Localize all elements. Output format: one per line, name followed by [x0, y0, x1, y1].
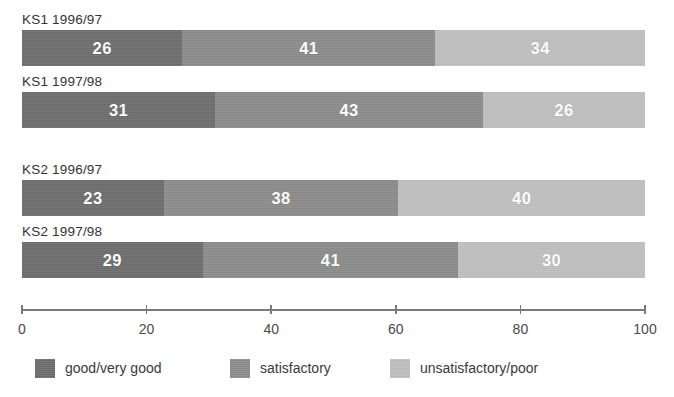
axis-tick — [395, 305, 397, 314]
axis-tick-label: 60 — [388, 321, 404, 337]
axis-tick — [146, 305, 148, 314]
bar-category-label: KS1 1997/98 — [22, 74, 102, 90]
legend-label: satisfactory — [260, 360, 331, 376]
bar-segment: 34 — [435, 30, 645, 66]
axis-tick-label: 80 — [513, 321, 529, 337]
bar-segment-value: 31 — [109, 101, 128, 120]
bar-group: KS1 1996/97264134 — [22, 12, 645, 70]
bar-category-label: KS2 1997/98 — [22, 224, 102, 240]
bar-segment-value: 26 — [554, 101, 573, 120]
bar-segment-value: 38 — [271, 189, 290, 208]
bar-segment: 38 — [164, 180, 398, 216]
legend-item[interactable]: satisfactory — [230, 359, 331, 378]
bar-segment: 30 — [458, 242, 645, 278]
bar-segment-value: 30 — [542, 251, 561, 270]
stacked-bar: 264134 — [22, 30, 645, 66]
legend-swatch — [390, 359, 410, 378]
legend-item[interactable]: good/very good — [35, 359, 162, 378]
legend-swatch — [230, 359, 250, 378]
bar-segment-value: 40 — [512, 189, 531, 208]
bar-segment: 41 — [203, 242, 458, 278]
bar-segment: 41 — [182, 30, 435, 66]
x-axis: 020406080100 — [22, 309, 645, 311]
bar-category-label: KS2 1996/97 — [22, 162, 102, 178]
axis-tick — [520, 305, 522, 314]
stacked-bar-chart: KS1 1996/97264134KS1 1997/98314326KS2 19… — [0, 0, 674, 397]
bar-segment-value: 41 — [321, 251, 340, 270]
bar-group: KS2 1997/98294130 — [22, 224, 645, 282]
stacked-bar: 314326 — [22, 92, 645, 128]
plot-area: KS1 1996/97264134KS1 1997/98314326KS2 19… — [22, 12, 645, 290]
bar-segment-value: 23 — [83, 189, 102, 208]
bar-group: KS2 1996/97233840 — [22, 162, 645, 220]
axis-tick-label: 100 — [633, 321, 656, 337]
bar-segment-value: 43 — [339, 101, 358, 120]
bar-segment-value: 34 — [530, 39, 549, 58]
bar-segment: 29 — [22, 242, 203, 278]
legend-swatch — [35, 359, 55, 378]
bar-segment-value: 29 — [103, 251, 122, 270]
axis-tick-label: 20 — [139, 321, 155, 337]
bar-segment: 23 — [22, 180, 164, 216]
legend-item[interactable]: unsatisfactory/poor — [390, 359, 538, 378]
axis-tick-label: 0 — [18, 321, 26, 337]
axis-tick-label: 40 — [263, 321, 279, 337]
bar-segment: 26 — [22, 30, 182, 66]
stacked-bar: 233840 — [22, 180, 645, 216]
bar-group: KS1 1997/98314326 — [22, 74, 645, 132]
axis-tick — [270, 305, 272, 314]
bar-segment: 40 — [398, 180, 645, 216]
legend-label: unsatisfactory/poor — [420, 360, 538, 376]
bar-segment: 26 — [483, 92, 645, 128]
bar-segment: 43 — [215, 92, 483, 128]
axis-tick — [21, 305, 23, 314]
bar-category-label: KS1 1996/97 — [22, 12, 102, 28]
bar-segment: 31 — [22, 92, 215, 128]
legend-label: good/very good — [65, 360, 162, 376]
bar-segment-value: 26 — [93, 39, 112, 58]
stacked-bar: 294130 — [22, 242, 645, 278]
bar-segment-value: 41 — [299, 39, 318, 58]
axis-tick — [644, 305, 646, 314]
